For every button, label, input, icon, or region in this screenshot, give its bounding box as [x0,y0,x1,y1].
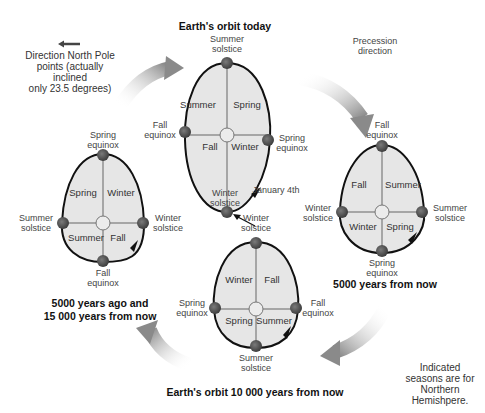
orbit-5000-ago-title: 5000 years ago and 15 000 years from now [30,297,170,323]
earth-icon [376,245,388,257]
point-label: Springequinox [362,258,402,278]
orbit-5000-years: Fall Summer Winter Spring [336,140,428,257]
earth-icon [250,237,262,249]
legend-line: only 23.5 degrees) [20,83,120,94]
point-label: Wintersolstice [205,188,245,208]
point-label: Summersolstice [430,203,470,223]
earth-icon [376,140,388,152]
svg-text:Fall: Fall [264,274,279,285]
point-label: Fallequinox [83,268,123,288]
orbit-10000-title: Earth's orbit 10 000 years from now [160,386,350,399]
svg-text:Fall: Fall [202,141,217,152]
earth-icon [221,57,233,69]
svg-text:Spring: Spring [386,221,413,232]
svg-text:Winter: Winter [349,221,376,232]
legend-line: Direction North Pole [20,50,120,61]
perihelion-label: January 4th [246,185,306,195]
point-label: Fallequinox [298,298,338,318]
point-label: Springequinox [172,298,212,318]
orbit-10000-years: Winter Fall Spring Summer [209,237,302,352]
svg-text:Summer: Summer [180,99,216,110]
orbit-today-title: Earth's orbit today [170,20,280,33]
point-label: Wintersolstice [298,203,338,223]
earth-icon [179,126,191,138]
sun-icon [375,205,389,219]
point-label: Springequinox [83,130,123,150]
svg-text:Fall: Fall [351,179,366,190]
sun-icon [96,216,110,230]
point-label: Fallequinox [140,120,180,140]
point-label: Wintersolstice [236,213,276,233]
svg-text:Winter: Winter [225,274,252,285]
svg-text:Fall: Fall [110,232,125,243]
hemisphere-note: Indicated seasons are for Northern Hemis… [395,362,485,406]
orbit-5000-title: 5000 years from now [330,278,440,291]
point-label: Summersolstice [207,34,247,54]
precession-arrow-icon [120,56,184,106]
earth-icon [97,149,109,161]
point-label: Summersolstice [16,213,56,233]
sun-icon [249,302,263,316]
svg-text:Spring: Spring [69,187,96,198]
orbit-5000-years-ago: Spring Winter Summer Fall [57,149,149,267]
north-pole-direction-arrow-icon [58,41,80,48]
precession-arrow-icon [136,320,190,365]
point-label: Fallequinox [362,120,402,140]
earth-icon [57,217,69,229]
point-label: Wintersolstice [148,213,188,233]
earth-icon [416,206,428,218]
north-pole-legend: Direction North Pole points (actually in… [20,50,120,94]
point-label: Summersolstice [236,353,276,373]
earth-icon [97,255,109,267]
precession-direction-label: Precession direction [340,36,410,56]
sun-icon [220,128,234,142]
svg-text:Winter: Winter [107,187,134,198]
point-label: Springequinox [272,133,312,153]
svg-text:Spring: Spring [233,99,260,110]
svg-text:Summer: Summer [385,179,421,190]
legend-line: points (actually inclined [20,61,120,83]
earth-icon [250,340,262,352]
svg-text:Spring: Spring [225,315,252,326]
svg-text:Summer: Summer [68,232,104,243]
svg-text:Winter: Winter [231,141,258,152]
svg-text:Summer: Summer [256,315,292,326]
